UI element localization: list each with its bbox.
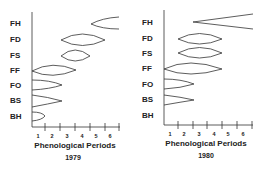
spindle-ff: [32, 65, 76, 75]
row-label-ff: FF: [10, 66, 30, 75]
chart-panel-1980: FH FD FS FF FO BS BH 1 2 3 4 5 6 Phenolo…: [133, 0, 266, 172]
row-label-fd: FD: [142, 34, 162, 43]
tick-label-3: 3: [63, 133, 71, 139]
spindle-fo: [164, 79, 194, 89]
tick-label-6: 6: [106, 133, 114, 139]
tick-label-4: 4: [78, 133, 86, 139]
row-label-fs: FS: [142, 49, 162, 58]
spindle-fd: [61, 34, 105, 46]
x-axis-title: Phenological Periods: [20, 141, 130, 150]
spindle-bs: [164, 95, 194, 105]
tick-label-1: 1: [34, 133, 42, 139]
spindle-bh: [32, 112, 45, 121]
spindle-fo: [32, 80, 62, 90]
chart-panel-1979: FH FD FS FF FO BS BH 1 2 3 4 5 6 Phenolo…: [0, 0, 133, 172]
row-label-ff: FF: [142, 64, 162, 73]
spindle-fd: [178, 34, 222, 45]
tick-label-4: 4: [210, 131, 218, 137]
panel-year-label: 1980: [186, 152, 226, 159]
row-label-bh: BH: [10, 112, 30, 121]
spindle-fs: [61, 50, 90, 61]
row-label-fd: FD: [10, 35, 30, 44]
tick-label-6: 6: [239, 131, 247, 137]
row-label-fs: FS: [10, 51, 30, 60]
spindle-fh: [91, 17, 119, 29]
row-label-bs: BS: [10, 96, 30, 105]
x-axis-title: Phenological Periods: [151, 139, 261, 148]
tick-label-3: 3: [195, 131, 203, 137]
tick-label-1: 1: [166, 131, 174, 137]
tick-label-5: 5: [224, 131, 232, 137]
row-label-fh: FH: [142, 18, 162, 27]
panel-year-label: 1979: [53, 154, 93, 161]
spindle-ff: [164, 63, 222, 74]
tick-label-2: 2: [48, 133, 56, 139]
row-label-bh: BH: [142, 111, 162, 120]
tick-label-2: 2: [180, 131, 188, 137]
row-label-fo: FO: [10, 81, 30, 90]
row-label-bs: BS: [142, 95, 162, 104]
row-label-fo: FO: [142, 80, 162, 89]
spindle-fs: [178, 48, 222, 59]
spindle-fh: [193, 14, 253, 29]
tick-label-5: 5: [92, 133, 100, 139]
row-label-fh: FH: [10, 19, 30, 28]
spindle-bs: [32, 95, 62, 107]
